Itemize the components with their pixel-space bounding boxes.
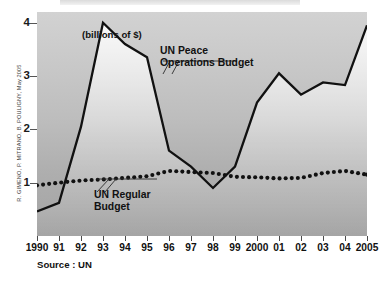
x-axis-tick-mark: [279, 236, 280, 241]
annotation-un-peace-operations-budget: UN Peace Operations Budget: [160, 45, 254, 70]
x-axis-tick-mark: [81, 236, 82, 241]
y-axis-tick-mark: [30, 23, 37, 24]
x-axis: 19909192939495969798992000010203042005: [37, 236, 367, 256]
x-axis-tick-mark: [301, 236, 302, 241]
x-axis-tick-mark: [37, 236, 38, 241]
x-axis-tick-mark: [191, 236, 192, 241]
y-axis: 1234: [0, 0, 37, 236]
cropped-title-remnant: [60, 0, 300, 5]
x-axis-tick-mark: [125, 236, 126, 241]
y-axis-tick-mark: [30, 183, 37, 184]
x-axis-tick-mark: [103, 236, 104, 241]
x-axis-tick-mark: [235, 236, 236, 241]
annotation-un-regular-budget: UN Regular Budget: [94, 189, 151, 214]
x-axis-tick-mark: [147, 236, 148, 241]
units-caption: (billions of $): [82, 29, 142, 40]
x-axis-tick-mark: [213, 236, 214, 241]
x-axis-tick-label: 2005: [351, 242, 383, 254]
y-axis-tick-label: 4: [24, 17, 30, 27]
y-axis-tick-label: 2: [24, 123, 30, 133]
annotation-peace-line2: Operations Budget: [160, 57, 254, 69]
y-axis-tick-label: 1: [24, 177, 30, 187]
annotation-regular-line2: Budget: [94, 201, 151, 213]
x-axis-tick-mark: [59, 236, 60, 241]
x-axis-tick-mark: [345, 236, 346, 241]
y-axis-tick-label: 3: [24, 70, 30, 80]
x-axis-tick-mark: [323, 236, 324, 241]
annotation-peace-line1: UN Peace: [160, 45, 254, 57]
x-axis-tick-mark: [367, 236, 368, 241]
x-axis-tick-mark: [257, 236, 258, 241]
y-axis-tick-mark: [30, 76, 37, 77]
source-note: Source : UN: [37, 259, 92, 270]
annotation-regular-line1: UN Regular: [94, 189, 151, 201]
x-axis-tick-mark: [169, 236, 170, 241]
y-axis-tick-mark: [30, 129, 37, 130]
